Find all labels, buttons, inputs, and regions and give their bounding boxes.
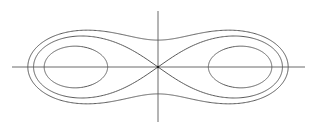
cassini-ovals-diagram — [0, 0, 315, 131]
origin-point — [157, 66, 160, 69]
